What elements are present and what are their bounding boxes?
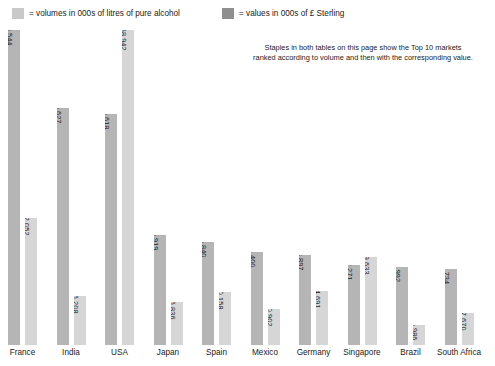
bar-value-label: 180 158 xyxy=(219,292,225,310)
bar-rect: 432 052 xyxy=(25,218,37,345)
bar-group: 48 544432 052 xyxy=(8,21,37,345)
bar-value-label: 299 633 xyxy=(365,257,371,275)
bar-rect: 180 158 xyxy=(219,292,231,345)
bar-rect: 166 208 xyxy=(74,296,86,345)
bar-value-label: 11 734 xyxy=(445,269,451,284)
bar-chart-plot-area: 48 544432 052France36 627166 208India35 … xyxy=(0,0,495,366)
bar-rect: 299 633 xyxy=(365,257,377,345)
bar-value-label: 146 836 xyxy=(171,302,177,320)
bar-value-label: 16 919 xyxy=(154,235,160,250)
bar-value-label: 120 902 xyxy=(268,309,274,327)
bar-value-label: 66 986 xyxy=(413,325,419,340)
bar-rect: 66 986 xyxy=(413,325,425,345)
bar-group: 13 897184 691 xyxy=(299,21,328,345)
bar-group: 16 919146 836 xyxy=(154,21,183,345)
bar-group: 35 6181 068 942 xyxy=(105,21,134,345)
bar-value-label: 48 544 xyxy=(8,30,14,45)
bar-value-label: 166 208 xyxy=(74,296,80,314)
bar-rect: 36 627 xyxy=(57,108,69,345)
bar-value-label: 13 897 xyxy=(299,255,305,270)
bar-value-label: 432 052 xyxy=(25,218,31,236)
bar-value-label: 12 271 xyxy=(348,265,354,280)
bar-rect: 11 992 xyxy=(396,267,408,345)
bar-value-label: 14 400 xyxy=(251,252,257,267)
bar-group: 12 271299 633 xyxy=(348,21,377,345)
category-label: South Africa xyxy=(419,348,495,357)
bar-rect: 184 691 xyxy=(316,291,328,345)
bar-rect: 15 840 xyxy=(202,242,214,345)
bar-group: 14 400120 902 xyxy=(251,21,280,345)
bar-rect: 107 670 xyxy=(462,313,474,345)
bar-value-label: 1 068 942 xyxy=(122,30,128,51)
bar-rect: 13 897 xyxy=(299,255,311,345)
bar-rect: 11 734 xyxy=(445,269,457,345)
bar-group: 11 734107 670 xyxy=(445,21,474,345)
bar-value-label: 107 670 xyxy=(462,313,468,331)
bar-rect: 16 919 xyxy=(154,235,166,345)
bar-rect: 146 836 xyxy=(171,302,183,345)
bar-rect: 14 400 xyxy=(251,252,263,345)
bar-value-label: 35 618 xyxy=(105,114,111,129)
bar-rect: 120 902 xyxy=(268,309,280,345)
bar-value-label: 11 992 xyxy=(396,267,402,282)
bar-group: 15 840180 158 xyxy=(202,21,231,345)
bar-group: 36 627166 208 xyxy=(57,21,86,345)
bar-value-label: 36 627 xyxy=(57,108,63,123)
bar-rect: 1 068 942 xyxy=(122,30,134,345)
bar-value-label: 15 840 xyxy=(202,242,208,257)
bar-rect: 12 271 xyxy=(348,265,360,345)
bar-value-label: 184 691 xyxy=(316,291,322,309)
bar-group: 11 99266 986 xyxy=(396,21,425,345)
bar-rect: 48 544 xyxy=(8,30,20,345)
bar-rect: 35 618 xyxy=(105,114,117,345)
chart-baseline xyxy=(0,345,495,346)
